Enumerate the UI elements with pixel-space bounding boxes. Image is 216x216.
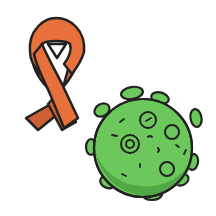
illustration	[0, 0, 216, 216]
awareness-ribbon-icon	[26, 18, 84, 130]
virus-icon	[86, 85, 203, 200]
